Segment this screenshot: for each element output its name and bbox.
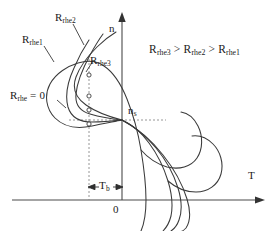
- torque-axis-arrowhead: [255, 196, 265, 203]
- speed-axis-label: n: [109, 23, 115, 34]
- label-leader-lines: [44, 24, 93, 108]
- label-rhe3: Rrhe3: [90, 55, 111, 66]
- label-tb: Tb: [99, 180, 110, 191]
- inequality-annotation: Rrhe3 > Rrhe2 > Rrhe1: [149, 44, 240, 56]
- crossing-marker-rhe1: [87, 108, 91, 112]
- origin-label: 0: [113, 204, 119, 215]
- label-rhe2: Rrhe2: [55, 12, 76, 23]
- curves-group: [47, 32, 222, 231]
- leader-rhe1: [44, 46, 54, 62]
- crossing-marker-rhe0: [87, 122, 91, 126]
- label-rhe1: Rrhe1: [22, 34, 43, 45]
- leader-rhe0: [57, 100, 66, 108]
- crossing-marker-rhe3: [87, 73, 91, 77]
- speed-axis-arrowhead: [118, 12, 125, 22]
- crossing-marker-rhe2: [87, 94, 91, 98]
- curve-rhe-0: [47, 61, 146, 231]
- leader-rhe2: [73, 24, 84, 45]
- label-rhe0: Rrhe = 0: [10, 90, 45, 101]
- curve-rhe-1: [67, 40, 172, 231]
- label-ns: ns: [128, 105, 137, 116]
- speed-torque-diagram: Rrhe2 Rrhe1 Rrhe3 Rrhe = 0 Rrhe3 > Rrhe2…: [0, 0, 277, 231]
- torque-axis-label: T: [248, 170, 255, 181]
